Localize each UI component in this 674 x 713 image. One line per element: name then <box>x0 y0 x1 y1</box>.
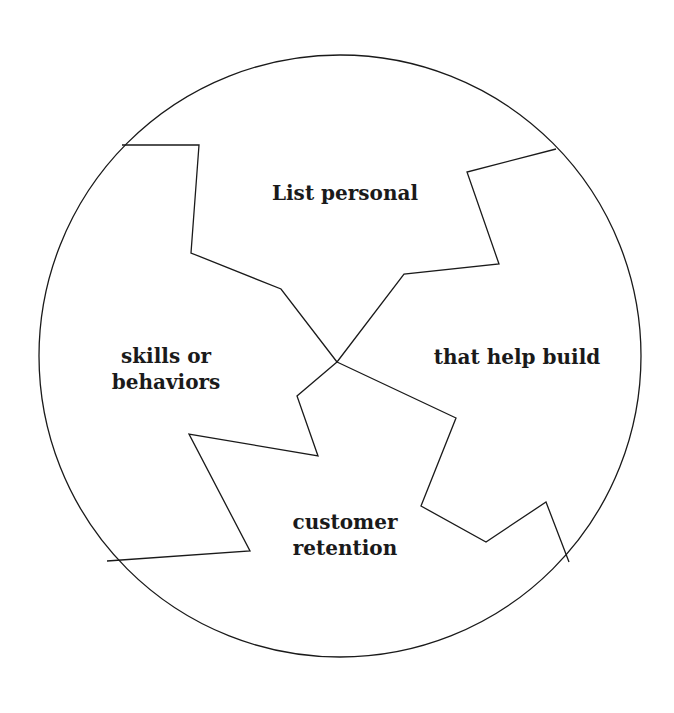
segment-top-label: List personal <box>272 180 418 206</box>
label-line: List personal <box>272 180 418 206</box>
segment-right-label: that help build <box>434 344 600 370</box>
label-line: that help build <box>434 344 600 370</box>
divider-top-left <box>122 145 337 362</box>
label-line: customer <box>293 509 398 535</box>
label-line: skills or <box>112 343 221 369</box>
label-line: behaviors <box>112 369 221 395</box>
segment-bottom-label: customer retention <box>293 509 398 561</box>
label-line: retention <box>293 535 398 561</box>
segment-left-label: skills or behaviors <box>112 343 221 395</box>
